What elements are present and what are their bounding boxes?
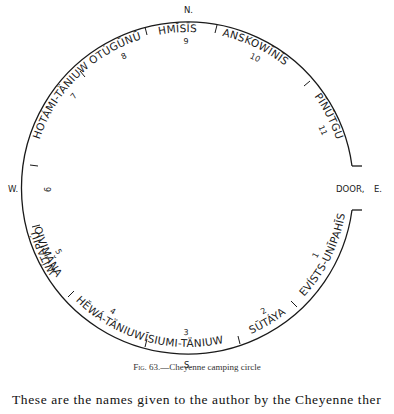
band-number-7: 7: [69, 91, 79, 101]
body-paragraph: These are the names given to the author …: [12, 392, 394, 408]
compass-east: E.: [374, 184, 382, 194]
band-number-11: 11: [317, 124, 329, 137]
band-label-2: SŪTÁYA: [247, 305, 288, 336]
figure-caption-prefix: Fig. 63.: [133, 362, 160, 372]
cheyenne-camping-circle-diagram: N. S. W. DOOR, E. HOTÁMI-TÄNIUW OTÚGŪNŪ …: [0, 0, 394, 414]
figure-caption-text: —Cheyenne camping circle: [160, 362, 260, 372]
band-number-6: 6: [44, 187, 53, 192]
band-number-8: 8: [120, 51, 129, 61]
band-number-10: 10: [248, 51, 261, 64]
compass-west: W.: [8, 184, 18, 194]
band-number-3: 3: [183, 328, 188, 337]
band-number-9: 9: [183, 37, 188, 46]
band-label-11: PĪNŪTGU: [313, 91, 346, 141]
band-label-7: HOTÁMI-TÄNIUW: [30, 59, 91, 140]
compass-north: N.: [184, 5, 193, 15]
figure-caption: Fig. 63.—Cheyenne camping circle: [0, 362, 394, 372]
band-label-9: HMĬSĪS: [157, 22, 197, 37]
door-label: DOOR,: [336, 184, 365, 194]
band-label-8: OTÚGŪNŪ: [86, 29, 142, 66]
